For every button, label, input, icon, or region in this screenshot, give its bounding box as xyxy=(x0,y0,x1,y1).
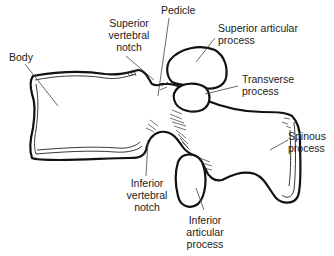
inferior-articular-process-shape xyxy=(176,155,206,207)
label-inferior-vertebral-notch: Inferior vertebral notch xyxy=(122,177,172,213)
label-transverse-process: Transverse process xyxy=(242,73,294,97)
label-body: Body xyxy=(9,51,33,63)
transverse-process-shape xyxy=(174,84,210,112)
label-superior-articular-process: Superior articular process xyxy=(218,22,298,46)
superior-articular-process-shape xyxy=(167,47,226,88)
label-inferior-articular-process: Inferior articular process xyxy=(180,214,230,250)
label-superior-vertebral-notch: Superior vertebral notch xyxy=(101,17,157,53)
label-pedicle: Pedicle xyxy=(161,4,195,16)
label-spinous-process: Spinous process xyxy=(288,130,326,154)
